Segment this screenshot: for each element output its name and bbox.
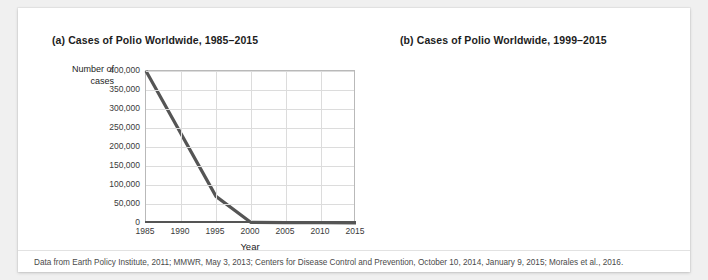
gridline-vertical: [216, 71, 217, 222]
panel-a-title: (a) Cases of Polio Worldwide, 1985–2015: [52, 34, 258, 46]
y-axis-tick-label: 400,000: [84, 65, 140, 75]
x-axis-tick-label: 1990: [171, 226, 190, 236]
gridline-vertical: [321, 71, 322, 222]
y-axis-tick-label: 150,000: [84, 160, 140, 170]
x-axis-tick-label: 2010: [311, 226, 330, 236]
chart-panel-b: (b) Cases of Polio Worldwide, 1999–2015 …: [368, 8, 690, 244]
chart-panel-a: (a) Cases of Polio Worldwide, 1985–2015 …: [18, 8, 368, 244]
y-axis-tick-label: 350,000: [84, 84, 140, 94]
x-axis-tick-label: 1985: [136, 226, 155, 236]
y-axis-tick-label: 0: [84, 217, 140, 227]
source-note: Data from Earth Policy Institute, 2011; …: [34, 257, 684, 268]
y-axis-tick-label: 250,000: [84, 122, 140, 132]
gridline-vertical: [251, 71, 252, 222]
x-axis-tick-label: 1995: [206, 226, 225, 236]
gridline-vertical: [181, 71, 182, 222]
y-axis-tick-label: 300,000: [84, 103, 140, 113]
y-axis-tick-label: 50,000: [84, 198, 140, 208]
panel-a-plot-area: [145, 70, 355, 222]
x-axis-tick-label: 2015: [346, 226, 365, 236]
gridline-vertical: [286, 71, 287, 222]
panel-a-x-axis-line: [145, 221, 356, 223]
x-axis-tick-label: 2000: [241, 226, 260, 236]
source-divider: [18, 250, 690, 251]
x-axis-tick-label: 2005: [276, 226, 295, 236]
y-axis-tick-label: 200,000: [84, 141, 140, 151]
figure-card: (a) Cases of Polio Worldwide, 1985–2015 …: [18, 8, 690, 272]
panel-b-title: (b) Cases of Polio Worldwide, 1999–2015: [400, 34, 607, 46]
y-axis-tick-label: 100,000: [84, 179, 140, 189]
